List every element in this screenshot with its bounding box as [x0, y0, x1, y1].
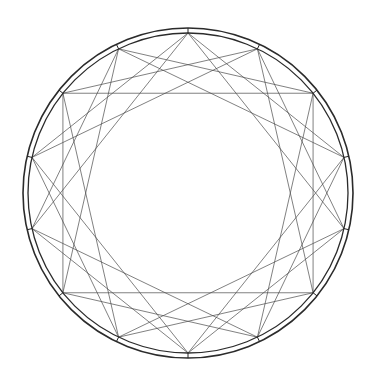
outer-ring	[23, 28, 353, 358]
chord-line	[32, 33, 188, 229]
vertex-tick	[59, 293, 63, 296]
chord-line	[257, 49, 344, 229]
vertex-tick	[257, 337, 259, 342]
vertex-tick	[27, 156, 32, 157]
chord-line	[119, 229, 344, 338]
chord-line	[32, 49, 119, 229]
chord-line	[63, 49, 119, 293]
inner-ring	[28, 33, 348, 353]
chord-line	[32, 49, 257, 158]
vertex-tick	[59, 90, 63, 93]
vertex-tick	[313, 293, 317, 296]
chord-lines	[32, 33, 344, 353]
fourteen-point-star-figure	[0, 0, 376, 383]
chord-line	[257, 49, 313, 293]
chord-line	[119, 49, 344, 158]
diagram-canvas	[0, 0, 376, 383]
chord-line	[257, 157, 344, 337]
vertex-tick	[344, 229, 349, 230]
vertex-tick	[344, 156, 349, 157]
chord-line	[188, 157, 344, 353]
chord-line	[32, 157, 188, 353]
circle-rings	[23, 28, 353, 358]
vertex-tick	[27, 229, 32, 230]
chord-line	[63, 93, 119, 337]
vertex-tick	[116, 44, 118, 49]
chord-line	[188, 33, 344, 229]
vertex-tick	[116, 337, 118, 342]
vertex-ticks	[27, 28, 349, 358]
vertex-tick	[313, 90, 317, 93]
chord-line	[32, 229, 257, 338]
vertex-tick	[257, 44, 259, 49]
chord-line	[32, 157, 119, 337]
chord-line	[257, 93, 313, 337]
